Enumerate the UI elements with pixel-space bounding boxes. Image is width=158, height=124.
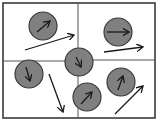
particle-bottom-left xyxy=(15,60,43,88)
particle-bottom-right xyxy=(107,68,135,96)
particle-diagram xyxy=(0,0,158,124)
particle-top-right xyxy=(104,18,132,46)
particle-bottom-center xyxy=(73,83,101,111)
particle-center xyxy=(65,48,93,76)
particle-circle xyxy=(29,12,57,40)
particle-circle xyxy=(15,60,43,88)
particle-top-left xyxy=(29,12,57,40)
